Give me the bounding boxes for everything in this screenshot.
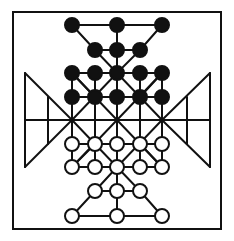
black-piece[interactable] bbox=[155, 66, 169, 80]
black-piece[interactable] bbox=[110, 66, 124, 80]
black-piece[interactable] bbox=[88, 90, 102, 104]
white-piece[interactable] bbox=[65, 160, 79, 174]
white-piece[interactable] bbox=[110, 184, 124, 198]
black-piece[interactable] bbox=[155, 18, 169, 32]
white-piece[interactable] bbox=[110, 209, 124, 223]
black-piece[interactable] bbox=[110, 90, 124, 104]
black-piece[interactable] bbox=[88, 43, 102, 57]
white-piece[interactable] bbox=[88, 160, 102, 174]
black-piece[interactable] bbox=[133, 90, 147, 104]
white-piece[interactable] bbox=[155, 209, 169, 223]
black-piece[interactable] bbox=[110, 18, 124, 32]
game-board-diagram bbox=[0, 0, 234, 241]
black-piece[interactable] bbox=[155, 90, 169, 104]
white-piece[interactable] bbox=[65, 137, 79, 151]
white-piece[interactable] bbox=[110, 160, 124, 174]
black-piece[interactable] bbox=[133, 43, 147, 57]
black-piece[interactable] bbox=[65, 66, 79, 80]
black-piece[interactable] bbox=[133, 66, 147, 80]
white-piece[interactable] bbox=[133, 137, 147, 151]
white-piece[interactable] bbox=[110, 137, 124, 151]
white-piece[interactable] bbox=[88, 184, 102, 198]
white-piece[interactable] bbox=[88, 137, 102, 151]
white-piece[interactable] bbox=[133, 160, 147, 174]
white-piece[interactable] bbox=[133, 184, 147, 198]
white-piece[interactable] bbox=[155, 137, 169, 151]
black-piece[interactable] bbox=[110, 43, 124, 57]
black-piece[interactable] bbox=[65, 18, 79, 32]
black-piece[interactable] bbox=[88, 66, 102, 80]
black-piece[interactable] bbox=[65, 90, 79, 104]
white-piece[interactable] bbox=[155, 160, 169, 174]
white-piece[interactable] bbox=[65, 209, 79, 223]
